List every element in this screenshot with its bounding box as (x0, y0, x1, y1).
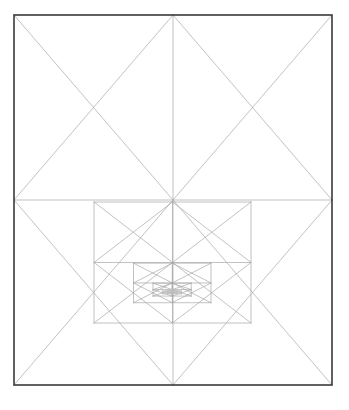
figure-root: A rectangular frame containing a recursi… (0, 0, 349, 410)
geometric-figure-svg (0, 0, 349, 410)
recursive-line-group (14, 15, 332, 385)
